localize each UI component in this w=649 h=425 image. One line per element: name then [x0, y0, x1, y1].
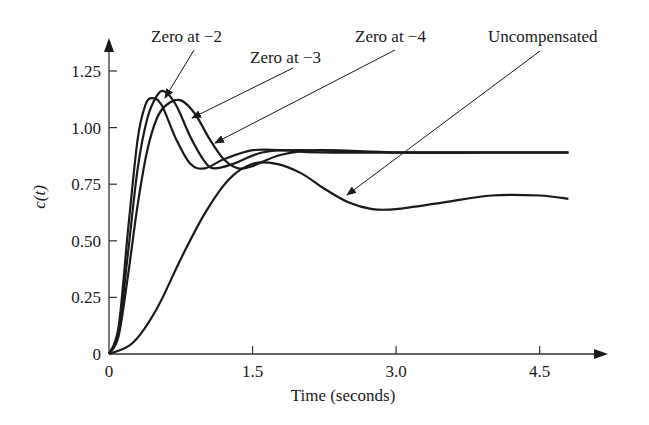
curves	[109, 91, 568, 354]
annotation-zero-at-3: Zero at −3	[250, 48, 321, 67]
curve-uncompensated	[109, 162, 568, 354]
y-tick-label: 0.75	[71, 175, 101, 194]
x-axis-label: Time (seconds)	[291, 386, 396, 405]
x-tick-label: 0	[105, 362, 114, 381]
annotations: Zero at −2 Zero at −3 Zero at −4 Uncompe…	[151, 27, 598, 195]
x-tick-label: 3.0	[385, 362, 406, 381]
y-tick-label: 0.25	[71, 288, 101, 307]
axes	[109, 50, 596, 354]
annotation-uncompensated: Uncompensated	[488, 27, 598, 46]
annotation-arrow-uncompensated	[347, 51, 540, 195]
annotation-zero-at-2: Zero at −2	[151, 27, 222, 46]
x-tick-label: 4.5	[529, 362, 550, 381]
y-tick-label: 0.50	[71, 232, 101, 251]
tick-marks	[109, 71, 540, 354]
annotation-arrow-zero-at-2	[165, 50, 194, 98]
curve-zero-at-2	[109, 100, 568, 354]
y-tick-label: 0	[93, 345, 102, 364]
y-tick-label: 1.00	[71, 119, 101, 138]
curve-zero-at-3	[109, 91, 568, 354]
annotation-zero-at-4: Zero at −4	[355, 27, 426, 46]
y-axis-label: c(t)	[30, 185, 49, 209]
y-tick-label: 1.25	[71, 62, 101, 81]
curve-zero-at-4	[109, 98, 568, 354]
x-tick-label: 1.5	[242, 362, 263, 381]
step-response-chart: 01.53.04.500.250.500.751.001.25 c(t) Tim…	[0, 0, 649, 425]
